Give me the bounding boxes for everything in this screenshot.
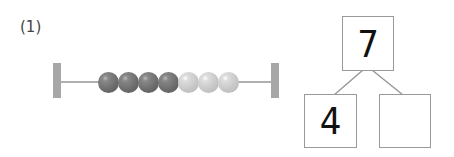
part-left-box: 4 — [304, 94, 357, 148]
part-right-answer-box[interactable] — [379, 94, 431, 148]
whole-box: 7 — [342, 16, 394, 71]
